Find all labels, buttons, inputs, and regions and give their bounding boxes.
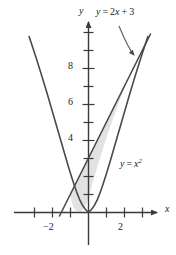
line-label-equals: =: [100, 6, 110, 17]
parabola-equation-label: y=x2: [120, 159, 142, 169]
figure-root: y x 4 6 8 −2 2 y=2x+3 y=x2: [0, 0, 176, 255]
y-tick-label-4: 4: [68, 133, 73, 143]
x-tick-label-2: 2: [118, 222, 123, 232]
line-label-plus: +: [120, 6, 130, 17]
y-axis-name: y: [79, 6, 83, 16]
shaded-region: [70, 51, 142, 212]
x-axis-name: x: [165, 204, 169, 214]
y-tick-label-8: 8: [68, 61, 73, 71]
leader-arrow-icon: [119, 26, 134, 55]
shaded-region-group: [70, 51, 142, 212]
plot-canvas: [0, 0, 176, 255]
straight-line-curve: [60, 34, 151, 216]
parabola-label-exponent: 2: [139, 157, 143, 165]
line-equation-label: y=2x+3: [96, 7, 134, 17]
y-tick-label-6: 6: [68, 97, 73, 107]
x-tick-label-minus2: −2: [43, 222, 54, 232]
line-label-constant: 3: [129, 6, 134, 17]
parabola-label-equals: =: [124, 158, 134, 169]
line-label-x: x: [115, 6, 119, 17]
